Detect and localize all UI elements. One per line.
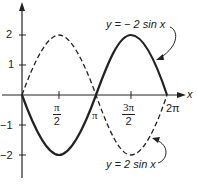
y-tick-2: 2 bbox=[6, 29, 12, 40]
y-tick-m2: −2 bbox=[0, 150, 13, 161]
denominator: 2 bbox=[122, 115, 135, 127]
x-axis-label: x bbox=[187, 89, 193, 100]
label-2sinx: y = 2 sin x bbox=[106, 159, 156, 170]
x-tick-pi: π bbox=[92, 110, 98, 121]
arrow-head-icon bbox=[156, 54, 164, 60]
arrow-neg-label bbox=[160, 27, 176, 58]
label-neg-2sinx: y = − 2 sin x bbox=[106, 19, 165, 30]
y-axis-arrow-icon bbox=[19, 2, 25, 11]
numerator: π bbox=[53, 102, 61, 115]
x-axis-arrow-icon bbox=[177, 92, 186, 98]
plot-area bbox=[0, 0, 197, 187]
x-tick-2pi: 2π bbox=[166, 103, 180, 114]
arrow-head-icon bbox=[152, 137, 160, 143]
denominator: 2 bbox=[53, 115, 61, 127]
y-tick-1: 1 bbox=[8, 59, 14, 70]
numerator: 3π bbox=[122, 102, 135, 115]
y-tick-m1: −1 bbox=[0, 120, 13, 131]
sine-chart: 2 1 −1 −2 x π 2 π 3π 2 2π y = − 2 sin x … bbox=[0, 0, 197, 187]
x-tick-pi-half: π 2 bbox=[53, 102, 61, 127]
arrow-pos-label bbox=[156, 140, 166, 163]
x-tick-3pi-half: 3π 2 bbox=[122, 102, 135, 127]
